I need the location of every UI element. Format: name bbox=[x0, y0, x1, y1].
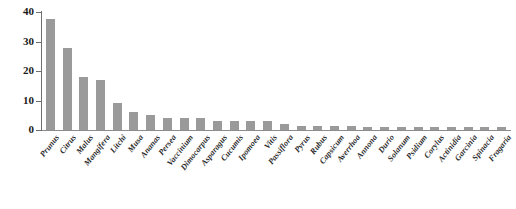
chart-bar bbox=[96, 80, 105, 130]
chart-bar bbox=[129, 112, 138, 130]
chart-bar bbox=[180, 118, 189, 130]
x-axis-label-slot: Citrus bbox=[58, 133, 78, 156]
chart-bar bbox=[447, 127, 456, 130]
chart-bar bbox=[163, 118, 172, 130]
chart-bar bbox=[313, 126, 322, 130]
x-axis-label-slot: Prunus bbox=[39, 133, 62, 159]
chart-bar bbox=[464, 127, 473, 130]
chart-bar bbox=[297, 126, 306, 130]
chart-bar bbox=[146, 115, 155, 130]
plot-area bbox=[42, 12, 510, 130]
chart-bar bbox=[330, 126, 339, 130]
chart-bar bbox=[280, 124, 289, 130]
chart-bar bbox=[430, 127, 439, 130]
chart-bar bbox=[46, 19, 55, 130]
x-axis-line bbox=[41, 130, 511, 131]
chart-bar bbox=[480, 127, 489, 130]
y-axis-tick-label: 0 bbox=[0, 124, 34, 135]
chart-bar bbox=[246, 121, 255, 130]
chart-bar bbox=[380, 127, 389, 130]
chart-bar bbox=[363, 127, 372, 130]
y-axis-tick-label: 20 bbox=[0, 65, 34, 76]
x-axis-tick-label: Prunus bbox=[39, 133, 62, 159]
y-axis-tick bbox=[36, 130, 42, 131]
chart-bar bbox=[63, 48, 72, 130]
chart-bar bbox=[230, 121, 239, 130]
y-axis-tick-label: 10 bbox=[0, 95, 34, 106]
y-axis-tick-label: 30 bbox=[0, 36, 34, 47]
chart-bar bbox=[397, 127, 406, 130]
x-axis-tick-label: Citrus bbox=[58, 133, 78, 156]
chart-bar bbox=[79, 77, 88, 130]
chart-bar bbox=[213, 121, 222, 130]
x-axis-label-slot: Litchi bbox=[109, 133, 129, 155]
chart-bar bbox=[263, 121, 272, 130]
y-axis-tick-label: 40 bbox=[0, 6, 34, 17]
x-axis-tick-label: Litchi bbox=[109, 133, 129, 155]
chart-bar bbox=[196, 118, 205, 130]
bar-chart-figure: 010203040 PrunusCitrusMalusMangiferaLitc… bbox=[0, 0, 516, 209]
chart-bar bbox=[414, 127, 423, 130]
chart-bar bbox=[347, 126, 356, 130]
chart-bar bbox=[497, 127, 506, 130]
chart-bar bbox=[113, 103, 122, 130]
